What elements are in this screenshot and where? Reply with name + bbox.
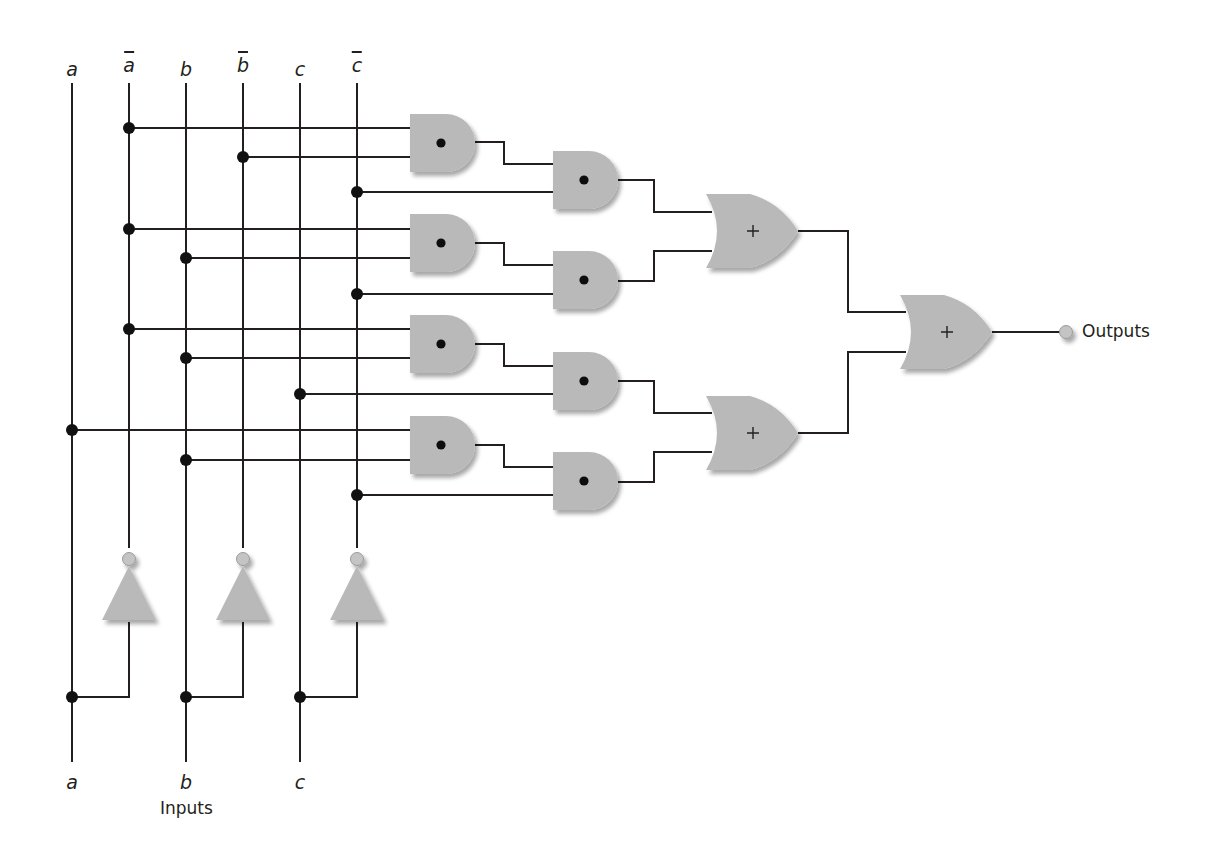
- and-gate-6: [553, 352, 618, 410]
- and-gate-8: [553, 452, 618, 510]
- not-gate-a: [102, 553, 156, 621]
- and-gate-5: [410, 315, 475, 373]
- label-bottom-b: b: [180, 773, 192, 792]
- label-top-b-not: b: [237, 51, 249, 75]
- not-gate-b: [216, 553, 270, 621]
- and-gate-1: [410, 114, 475, 172]
- wire-b-to-not: [186, 622, 243, 697]
- wire-c-to-not: [300, 622, 357, 697]
- and-gate-2: [553, 151, 618, 209]
- output-terminal: [1060, 326, 1073, 339]
- and-gate-7: [410, 416, 475, 474]
- label-bottom-a: a: [66, 773, 78, 792]
- and-gate-4: [553, 251, 618, 309]
- inputs-caption: Inputs: [160, 800, 213, 817]
- wire-a-to-not: [72, 622, 129, 697]
- logic-circuit-diagram: [0, 0, 1215, 851]
- label-top-c: c: [295, 55, 305, 79]
- not-gate-c: [330, 553, 384, 621]
- label-top-b: b: [180, 55, 192, 79]
- label-top-c-not: c: [352, 51, 362, 75]
- or-gate-3: [900, 295, 992, 369]
- or-gate-2: [706, 396, 798, 470]
- outputs-caption: Outputs: [1082, 323, 1150, 340]
- label-bottom-c: c: [295, 773, 305, 792]
- label-top-a-not: a: [123, 51, 135, 75]
- label-top-a: a: [66, 55, 78, 79]
- or-gate-1: [706, 194, 798, 268]
- and-gate-3: [410, 214, 475, 272]
